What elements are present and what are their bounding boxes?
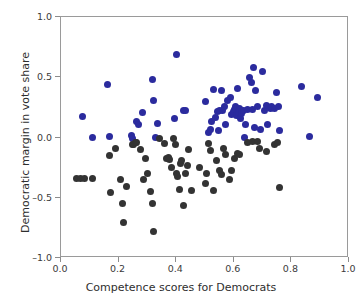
data-point	[207, 147, 214, 154]
data-point	[210, 187, 217, 194]
data-point	[242, 121, 249, 128]
data-point	[104, 81, 111, 88]
x-tick-mark	[233, 257, 234, 262]
data-point	[213, 157, 220, 164]
data-point	[173, 51, 180, 58]
data-point	[203, 170, 210, 177]
data-point	[236, 151, 243, 158]
data-point	[228, 167, 235, 174]
data-point	[182, 170, 189, 177]
data-point	[306, 133, 313, 140]
x-tick-label: 0.0	[52, 263, 67, 274]
data-point	[81, 175, 88, 182]
data-point	[106, 152, 113, 159]
x-tick-label: 0.8	[283, 263, 298, 274]
data-point	[149, 200, 156, 207]
data-point	[172, 141, 179, 148]
data-point	[252, 87, 259, 94]
data-point	[275, 103, 282, 110]
data-point	[184, 162, 191, 169]
x-tick-mark	[118, 257, 119, 262]
data-point	[202, 98, 209, 105]
data-point	[263, 148, 270, 155]
data-point	[218, 171, 225, 178]
data-point	[140, 176, 147, 183]
data-point	[222, 151, 229, 158]
x-tick-label: 1.0	[340, 263, 355, 274]
data-point	[254, 138, 261, 145]
data-point	[227, 94, 234, 101]
data-point	[222, 121, 229, 128]
data-point	[314, 94, 321, 101]
data-point	[248, 79, 255, 86]
data-point	[250, 64, 257, 71]
data-point	[142, 155, 149, 162]
chart-title	[0, 0, 362, 1]
y-tick-mark	[55, 197, 60, 198]
data-point	[135, 121, 142, 128]
data-point	[254, 103, 261, 110]
data-point	[207, 126, 214, 133]
x-tick-mark	[290, 257, 291, 262]
x-tick-label: 0.2	[110, 263, 125, 274]
data-point	[221, 103, 228, 110]
x-tick-mark	[60, 257, 61, 262]
data-point	[112, 145, 119, 152]
x-tick-mark	[348, 257, 349, 262]
plot-area	[61, 17, 347, 256]
data-point	[218, 87, 225, 94]
data-point	[202, 180, 209, 187]
x-tick-label: 0.4	[168, 263, 183, 274]
data-point	[298, 83, 305, 90]
data-point	[276, 127, 283, 134]
data-point	[264, 121, 271, 128]
data-point	[139, 109, 146, 116]
data-point	[119, 200, 126, 207]
data-point	[234, 85, 241, 92]
plot-frame	[60, 16, 348, 257]
y-tick-label: 1.0	[24, 11, 52, 22]
data-point	[117, 176, 124, 183]
data-point	[259, 68, 266, 75]
data-point	[79, 113, 86, 120]
data-point	[273, 89, 280, 96]
data-point	[205, 140, 212, 147]
data-point	[182, 107, 189, 114]
data-point	[133, 139, 140, 146]
y-tick-mark	[55, 257, 60, 258]
y-tick-mark	[55, 76, 60, 77]
y-tick-mark	[55, 137, 60, 138]
x-axis-title: Competence scores for Democrats	[0, 281, 362, 294]
data-point	[176, 186, 183, 193]
data-point	[185, 146, 192, 153]
data-point	[166, 156, 173, 163]
y-tick-label: –0.5	[24, 191, 52, 202]
data-point	[274, 139, 281, 146]
data-point	[226, 176, 233, 183]
data-point	[106, 133, 113, 140]
scatter-plot-figure: Competence scores for Democrats Democrat…	[0, 0, 362, 306]
x-tick-label: 0.6	[225, 263, 240, 274]
y-tick-mark	[55, 16, 60, 17]
data-point	[150, 97, 157, 104]
data-point	[215, 127, 222, 134]
data-point	[147, 188, 154, 195]
data-point	[188, 187, 195, 194]
data-point	[137, 146, 144, 153]
data-point	[210, 86, 217, 93]
data-point	[257, 126, 264, 133]
y-tick-label: –1.0	[24, 252, 52, 263]
data-point	[120, 219, 127, 226]
data-point	[154, 120, 161, 127]
data-point	[89, 175, 96, 182]
data-point	[171, 115, 178, 122]
data-point	[144, 170, 151, 177]
data-point	[276, 184, 283, 191]
data-point	[196, 164, 203, 171]
data-point	[161, 140, 168, 147]
y-tick-label: 0.0	[24, 131, 52, 142]
data-point	[107, 189, 114, 196]
y-axis-title: Democratic margin in vote share	[19, 18, 32, 268]
data-point	[180, 202, 187, 209]
data-point	[123, 183, 130, 190]
